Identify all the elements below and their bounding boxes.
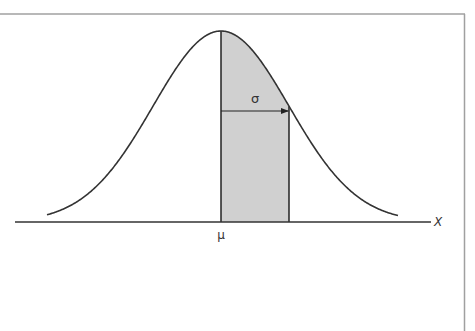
mean-label: μ bbox=[217, 228, 225, 242]
shaded-region-mean-to-one-sigma bbox=[221, 31, 289, 222]
sigma-label: σ bbox=[251, 91, 259, 106]
normal-distribution-diagram: σ μ X bbox=[0, 0, 475, 331]
x-axis-label: X bbox=[433, 215, 443, 229]
